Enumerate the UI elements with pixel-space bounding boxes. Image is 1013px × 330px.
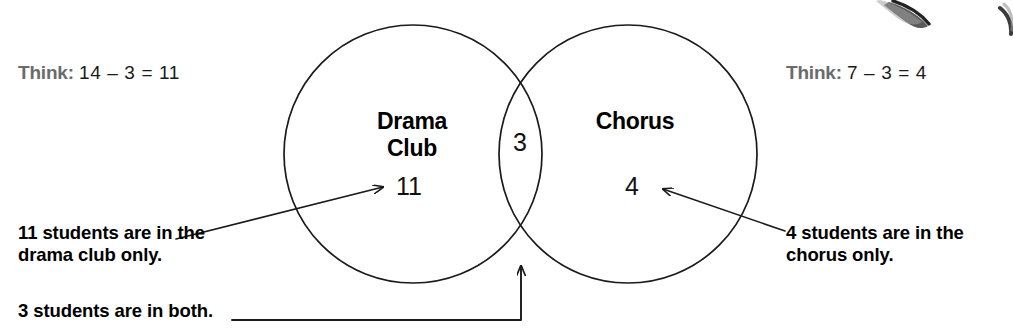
intersection-count: 3: [496, 128, 544, 158]
think-statement-right: Think: 7 – 3 = 4: [786, 62, 927, 84]
callout-chorus-only: 4 students are in the chorus only.: [786, 222, 1011, 266]
callout-both: 3 students are in both.: [18, 300, 278, 322]
think-equation-left: 14 – 3 = 11: [79, 62, 180, 83]
scan-smudge-artifacts: [876, 0, 1012, 34]
think-statement-left: Think: 14 – 3 = 11: [18, 62, 180, 84]
drama-only-count: 11: [379, 172, 439, 202]
think-equation-right: 7 – 3 = 4: [847, 62, 927, 83]
chorus-label: Chorus: [570, 108, 700, 135]
chorus-only-count: 4: [608, 172, 656, 202]
worksheet-page: Think: 14 – 3 = 11 Think: 7 – 3 = 4 Dram…: [0, 0, 1013, 330]
callout-drama-only: 11 students are in the drama club only.: [18, 222, 233, 266]
drama-club-label-line2: Club: [352, 135, 472, 162]
drama-club-label: Drama Club: [352, 108, 472, 162]
think-label-right: Think:: [786, 62, 842, 83]
think-label-left: Think:: [18, 62, 74, 83]
venn-diagram-graphic: [0, 0, 1013, 330]
drama-club-label-line1: Drama: [352, 108, 472, 135]
leader-line-chorus-only: [663, 189, 785, 231]
